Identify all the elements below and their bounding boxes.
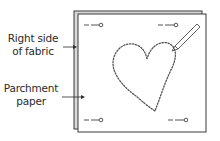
fabric-sheet	[78, 14, 206, 132]
diagram-canvas	[0, 0, 220, 141]
